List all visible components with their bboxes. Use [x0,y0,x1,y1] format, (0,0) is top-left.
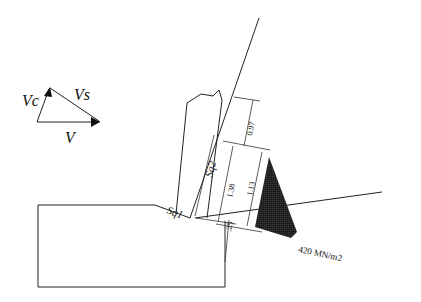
dim-097: 0.97 [245,121,257,137]
dimension-lines: 0.97 1.38 1.13 .25 [216,97,270,262]
velocity-triangle: Vc Vs V [22,86,100,146]
dim-tick-1 [234,97,260,101]
sq1-label: Sq1 [165,204,185,221]
stress-distribution-area [255,157,297,238]
v-label: V [65,129,77,146]
dim-025: .25 [224,221,235,232]
dim-tick-2 [223,141,270,150]
chip [176,90,222,218]
dim-tick-3 [216,224,262,232]
vc-label: Vc [22,92,39,109]
vs-label: Vs [74,86,90,103]
dim-138: 1.38 [225,183,237,199]
machining-diagram: Vc Vs V Sq1 Sq2 0.97 1.38 1.13 .25 420 M… [0,0,421,302]
stress-label: 420 MN/m2 [298,244,343,263]
dim-113: 1.13 [245,181,257,197]
